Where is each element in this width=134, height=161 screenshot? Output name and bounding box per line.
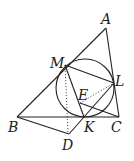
label-K: K (83, 119, 96, 135)
solid-segments (17, 28, 119, 134)
label-D: D (61, 137, 73, 153)
label-A: A (99, 11, 111, 27)
label-M: M (49, 55, 65, 71)
segment-BD (17, 117, 69, 134)
segment-AB (17, 28, 106, 117)
label-B: B (7, 119, 18, 135)
label-L: L (114, 73, 124, 89)
segment-ML (65, 65, 114, 83)
geometry-diagram: A M L E B K C D (0, 0, 134, 161)
label-E: E (77, 87, 88, 103)
label-C: C (111, 119, 122, 135)
segment-MD-dotted (65, 65, 68, 133)
